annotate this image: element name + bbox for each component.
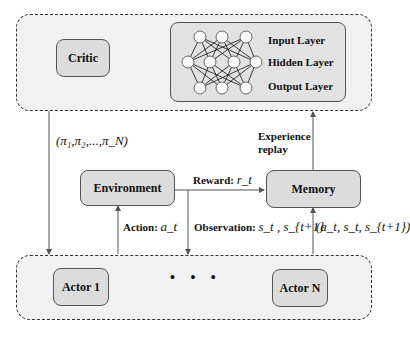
transition-tuple-label: (a_t, s_t, s_{t+1}) [316, 219, 410, 235]
ellipsis-icon: • • • [170, 270, 222, 286]
experience-replay-label: Experience replay [258, 130, 311, 156]
memory-label: Memory [292, 182, 336, 197]
reward-symbol: r_t [237, 172, 252, 187]
environment-box: Environment [80, 170, 175, 206]
environment-label: Environment [94, 181, 162, 196]
reward-label: Reward: r_t [193, 172, 252, 188]
observation-label: Observation: s_t , s_{t+1} [194, 219, 324, 235]
actor-n-box: Actor N [272, 269, 328, 307]
actor-1-label: Actor 1 [62, 280, 100, 295]
actor-1-box: Actor 1 [53, 268, 109, 306]
policy-set-label: (π₁,π₂,...,π_N) [56, 133, 128, 149]
observation-symbol: s_t , s_{t+1} [258, 219, 324, 234]
action-label: Action: a_t [123, 219, 177, 235]
actor-n-label: Actor N [280, 281, 321, 296]
memory-box: Memory [266, 170, 361, 208]
action-symbol: a_t [161, 219, 178, 234]
